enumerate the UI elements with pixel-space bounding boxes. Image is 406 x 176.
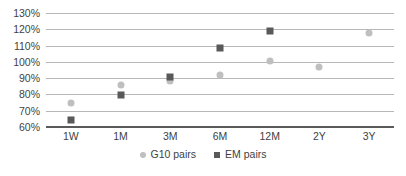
legend-label: G10 pairs	[151, 149, 197, 160]
y-axis-tick-label: 110%	[0, 41, 40, 51]
gridline	[46, 111, 394, 112]
y-axis-tick-label: 130%	[0, 8, 40, 18]
gridline	[46, 29, 394, 30]
data-point-g10[interactable]	[266, 58, 273, 65]
x-axis-tick-label: 2Y	[296, 131, 342, 142]
gridline	[46, 13, 394, 14]
x-axis-tick-label: 3M	[147, 131, 193, 142]
data-point-g10[interactable]	[117, 81, 124, 88]
gridline	[46, 94, 394, 95]
x-axis-tick-label: 3Y	[346, 131, 392, 142]
data-point-em[interactable]	[67, 116, 74, 123]
data-point-g10[interactable]	[217, 71, 224, 78]
chart-legend: G10 pairs EM pairs	[0, 149, 406, 160]
legend-item-em-pairs[interactable]: EM pairs	[214, 149, 266, 160]
legend-label: EM pairs	[225, 149, 266, 160]
circle-marker-icon	[140, 152, 146, 158]
data-point-g10[interactable]	[366, 29, 373, 36]
scatter-chart: 130%120%110%100%90%80%70%60% 1W1M3M6M12M…	[0, 0, 406, 176]
plot-area	[46, 13, 394, 127]
y-axis-tick-label: 100%	[0, 57, 40, 67]
x-axis-tick-label: 6M	[197, 131, 243, 142]
y-axis-tick-label: 90%	[0, 73, 40, 83]
data-point-em[interactable]	[117, 92, 124, 99]
gridline	[46, 62, 394, 63]
x-axis-tick-label: 1M	[98, 131, 144, 142]
data-point-g10[interactable]	[316, 63, 323, 70]
x-axis-tick-label: 12M	[247, 131, 293, 142]
data-point-em[interactable]	[217, 45, 224, 52]
legend-item-g10-pairs[interactable]: G10 pairs	[140, 149, 197, 160]
data-point-em[interactable]	[167, 73, 174, 80]
y-axis-tick-label: 120%	[0, 24, 40, 34]
square-marker-icon	[214, 152, 220, 158]
data-point-em[interactable]	[266, 27, 273, 34]
x-axis-line	[46, 126, 394, 128]
y-axis-tick-label: 80%	[0, 89, 40, 99]
y-axis-tick-label: 70%	[0, 106, 40, 116]
y-axis-tick-label: 60%	[0, 122, 40, 132]
data-point-g10[interactable]	[67, 99, 74, 106]
x-axis-tick-label: 1W	[48, 131, 94, 142]
